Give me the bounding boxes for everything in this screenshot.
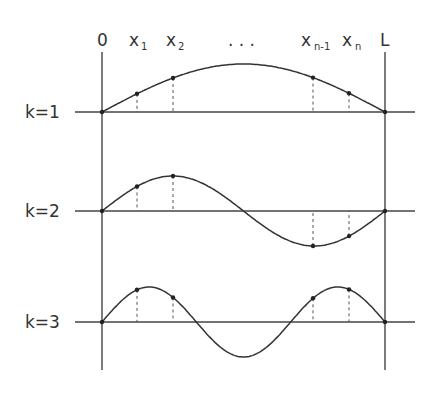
sample-point xyxy=(135,184,139,188)
sample-point xyxy=(311,244,315,248)
sample-point xyxy=(135,288,139,292)
boundary-node-point xyxy=(100,320,104,324)
sample-point xyxy=(311,75,315,79)
sample-point xyxy=(347,91,351,95)
svg-text:x: x xyxy=(342,30,352,50)
ellipsis-label: . . . xyxy=(228,30,255,50)
svg-text:n: n xyxy=(355,41,361,52)
sample-point xyxy=(171,295,175,299)
xn-label: x n xyxy=(342,30,361,52)
svg-text:x: x xyxy=(129,30,139,50)
mode-label-k3: k=3 xyxy=(25,312,60,332)
mode-label-k1: k=1 xyxy=(25,102,60,122)
svg-text:1: 1 xyxy=(141,41,147,52)
svg-text:x: x xyxy=(301,30,311,50)
svg-text:n-1: n-1 xyxy=(314,41,330,52)
x2-label: x 2 xyxy=(166,30,184,52)
boundary-node-point xyxy=(383,209,387,213)
sample-point xyxy=(171,76,175,80)
mode-label-k2: k=2 xyxy=(25,201,60,221)
boundary-node-point xyxy=(100,110,104,114)
boundary-node-point xyxy=(383,320,387,324)
sample-point xyxy=(135,92,139,96)
xn-minus-1-label: x n-1 xyxy=(301,30,330,52)
svg-text:2: 2 xyxy=(178,41,184,52)
x1-label: x 1 xyxy=(129,30,147,52)
boundary-node-point xyxy=(100,209,104,213)
svg-text:x: x xyxy=(166,30,176,50)
sample-point xyxy=(347,234,351,238)
boundary-node-point xyxy=(383,110,387,114)
standing-wave-diagram: 0 x 1 x 2 . . . x n-1 x n L k=1 k=2 k=3 xyxy=(0,0,437,393)
sample-point xyxy=(347,287,351,291)
sample-point xyxy=(171,174,175,178)
mode-curve-k1 xyxy=(102,64,385,112)
end-label: L xyxy=(380,30,390,50)
origin-label: 0 xyxy=(97,30,108,50)
sample-point xyxy=(311,296,315,300)
